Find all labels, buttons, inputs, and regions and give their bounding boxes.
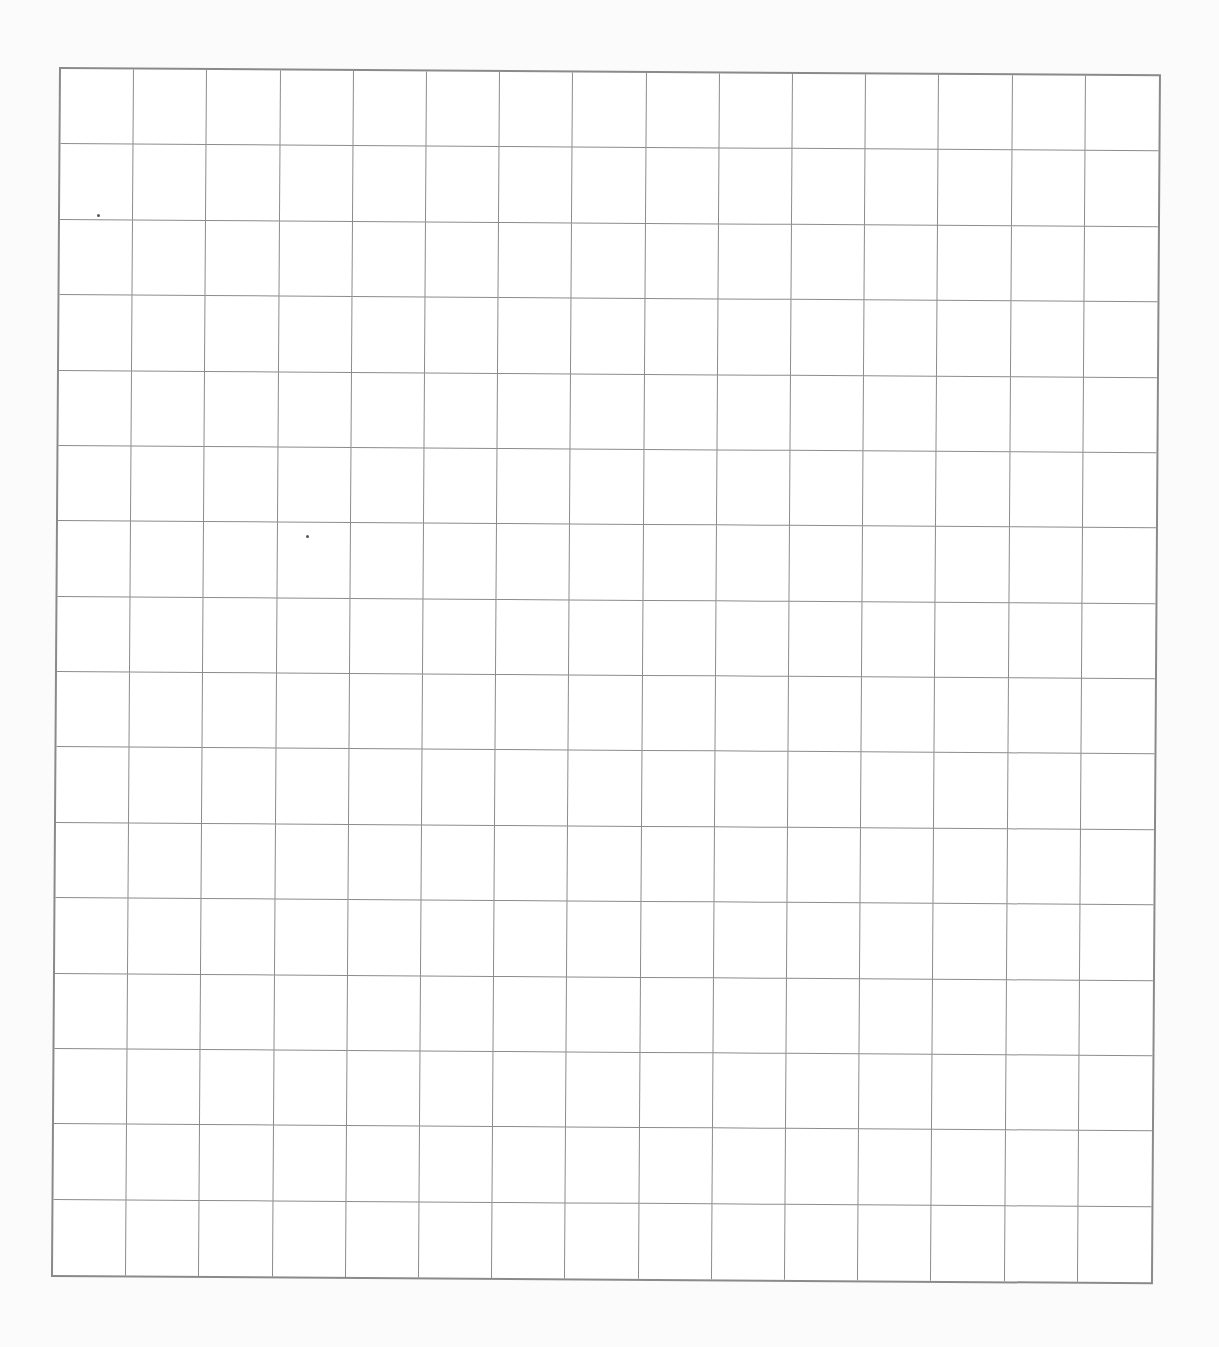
grid-cell bbox=[495, 750, 569, 826]
grid-cell bbox=[422, 674, 496, 750]
grid-cell bbox=[785, 1129, 859, 1205]
grid-cell bbox=[939, 75, 1013, 151]
grid-cell bbox=[128, 899, 202, 975]
grid-cell bbox=[279, 297, 353, 373]
grid-cell bbox=[1079, 980, 1153, 1056]
grid-cell bbox=[572, 148, 646, 224]
grid-cell bbox=[351, 372, 425, 448]
grid-cell bbox=[792, 149, 866, 225]
grid-cell bbox=[1011, 226, 1085, 302]
grid-cell bbox=[419, 1127, 493, 1203]
grid-cell bbox=[53, 1124, 127, 1200]
grid-cell bbox=[787, 903, 861, 979]
grid-cell bbox=[492, 1203, 566, 1279]
grid-cell bbox=[716, 601, 790, 677]
grid-cell bbox=[496, 600, 570, 676]
grid-cell bbox=[420, 1051, 494, 1127]
grid-cell bbox=[131, 446, 205, 522]
grid-cell bbox=[713, 1053, 787, 1129]
grid-cell bbox=[866, 74, 940, 150]
grid-cell bbox=[1012, 75, 1086, 151]
grid-cell bbox=[55, 823, 129, 899]
grid-cell bbox=[573, 72, 647, 148]
grid-cell bbox=[643, 525, 717, 601]
grid-cell bbox=[206, 221, 280, 297]
grid-cell bbox=[350, 599, 424, 675]
grid-cell bbox=[57, 521, 131, 597]
grid-cell bbox=[278, 447, 352, 523]
grid-cell bbox=[1078, 1206, 1152, 1282]
grid-cell bbox=[1012, 151, 1086, 227]
grid-cell bbox=[421, 825, 495, 901]
grid-cell bbox=[933, 979, 1007, 1055]
grid-cell bbox=[352, 222, 426, 298]
grid-cell bbox=[424, 373, 498, 449]
grid-cell bbox=[201, 974, 275, 1050]
grid-cell bbox=[58, 446, 132, 522]
grid-cell bbox=[1008, 678, 1082, 754]
grid-cell bbox=[859, 1130, 933, 1206]
grid-cell bbox=[863, 527, 937, 603]
grid-cell bbox=[937, 376, 1011, 452]
grid-cell bbox=[865, 150, 939, 226]
grid-cell bbox=[1007, 829, 1081, 905]
grid-cell bbox=[787, 828, 861, 904]
grid-cell bbox=[789, 601, 863, 677]
grid-cell bbox=[274, 975, 348, 1051]
grid-cell bbox=[719, 149, 793, 225]
grid-cell bbox=[347, 1051, 421, 1127]
grid-cell bbox=[279, 221, 353, 297]
grid-cell bbox=[1084, 302, 1158, 378]
grid-cell bbox=[644, 374, 718, 450]
grid-cell bbox=[132, 296, 206, 372]
grid-cell bbox=[1081, 679, 1155, 755]
grid-cell bbox=[54, 973, 128, 1049]
grid-cell bbox=[200, 1050, 274, 1126]
grid-cell bbox=[348, 900, 422, 976]
grid-cell bbox=[499, 147, 573, 223]
grid-cell bbox=[495, 826, 569, 902]
grid-cell bbox=[134, 69, 208, 145]
grid-cell bbox=[642, 751, 716, 827]
grid-cell bbox=[932, 1055, 1006, 1131]
grid-cell bbox=[493, 1052, 567, 1128]
grid-cell bbox=[127, 1125, 201, 1201]
grid-cell bbox=[57, 597, 131, 673]
grid-cell bbox=[498, 373, 572, 449]
grid-cell bbox=[497, 449, 571, 525]
grid-cell bbox=[936, 452, 1010, 528]
grid-cell bbox=[643, 601, 717, 677]
grid-cell bbox=[493, 1127, 567, 1203]
grid-cell bbox=[639, 1203, 713, 1279]
grid-cell bbox=[717, 450, 791, 526]
grid-cell bbox=[1078, 1131, 1152, 1207]
grid-cell bbox=[936, 527, 1010, 603]
grid-cell bbox=[714, 827, 788, 903]
grid-cell bbox=[1005, 1206, 1079, 1282]
grid-cell bbox=[791, 225, 865, 301]
grid-cell bbox=[719, 73, 793, 149]
grid-cell bbox=[203, 598, 277, 674]
grid-cell bbox=[129, 823, 203, 899]
grid-cell bbox=[860, 979, 934, 1055]
grid-cell bbox=[1082, 528, 1156, 604]
grid-cell bbox=[426, 71, 500, 147]
grid-cell bbox=[204, 522, 278, 598]
grid-cell bbox=[278, 372, 352, 448]
grid-cell bbox=[347, 975, 421, 1051]
grid-cell bbox=[1010, 452, 1084, 528]
grid-cell bbox=[200, 1125, 274, 1201]
grid-cell bbox=[786, 978, 860, 1054]
grid-cell bbox=[346, 1202, 420, 1278]
grid-cell bbox=[276, 749, 350, 825]
grid-cell bbox=[280, 70, 354, 146]
grid-cell bbox=[571, 374, 645, 450]
grid-cell bbox=[1009, 528, 1083, 604]
grid-cell bbox=[938, 226, 1012, 302]
grid-cell bbox=[790, 451, 864, 527]
grid-cell bbox=[934, 753, 1008, 829]
grid-cell bbox=[353, 146, 427, 222]
grid-cell bbox=[277, 523, 351, 599]
grid-cell bbox=[350, 523, 424, 599]
grid-cell bbox=[713, 978, 787, 1054]
